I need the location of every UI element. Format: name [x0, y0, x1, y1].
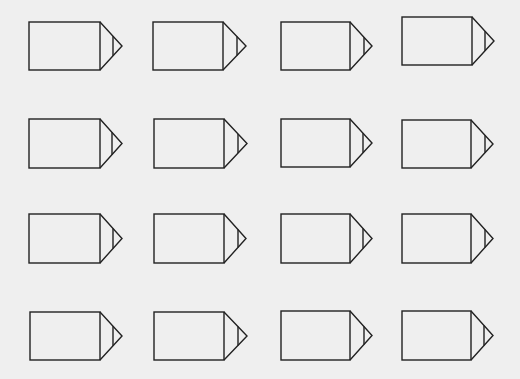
- pencil-shape-r1c1: [29, 22, 122, 70]
- shape-body-rect: [281, 311, 350, 360]
- pencil-shape-r4c3: [281, 311, 372, 360]
- shape-body-rect: [153, 22, 223, 70]
- pencil-shape-r4c1: [30, 312, 122, 360]
- shapes-grid: [29, 17, 494, 360]
- shape-tip-triangle: [350, 22, 372, 70]
- diagram-canvas: [0, 0, 520, 379]
- pencil-shape-r1c4: [402, 17, 494, 65]
- shape-body-rect: [30, 312, 100, 360]
- shape-tip-triangle: [224, 312, 247, 360]
- pencil-shape-r4c2: [154, 312, 247, 360]
- shape-body-rect: [29, 119, 100, 168]
- pencil-shape-r2c3: [281, 119, 372, 167]
- shape-tip-triangle: [100, 214, 122, 263]
- pencil-shape-r1c2: [153, 22, 246, 70]
- shape-body-rect: [402, 311, 471, 360]
- shape-body-rect: [154, 214, 224, 263]
- pencil-shape-r4c4: [402, 311, 493, 360]
- shape-body-rect: [281, 22, 350, 70]
- shape-body-rect: [402, 214, 471, 263]
- pencil-shape-r2c4: [402, 120, 493, 168]
- shape-body-rect: [29, 22, 100, 70]
- shape-tip-triangle: [100, 22, 122, 70]
- shape-tip-triangle: [471, 120, 493, 168]
- pencil-shape-r2c2: [154, 119, 247, 168]
- shape-body-rect: [154, 119, 224, 168]
- pencil-shape-r3c1: [29, 214, 122, 263]
- shape-tip-triangle: [471, 214, 493, 263]
- pencil-shape-r3c3: [281, 214, 372, 263]
- pencil-shape-r1c3: [281, 22, 372, 70]
- shape-body-rect: [154, 312, 224, 360]
- shape-body-rect: [402, 17, 472, 65]
- shape-tip-triangle: [472, 17, 494, 65]
- shape-tip-triangle: [471, 311, 493, 360]
- shape-tip-triangle: [350, 214, 372, 263]
- shape-tip-triangle: [350, 119, 372, 167]
- shape-body-rect: [281, 214, 350, 263]
- shape-tip-triangle: [224, 119, 247, 168]
- shape-tip-triangle: [224, 214, 246, 263]
- shape-tip-triangle: [100, 119, 122, 168]
- pencil-shape-r3c4: [402, 214, 493, 263]
- shape-body-rect: [281, 119, 350, 167]
- shape-tip-triangle: [223, 22, 246, 70]
- shape-tip-triangle: [100, 312, 122, 360]
- pencil-shape-r3c2: [154, 214, 246, 263]
- shape-body-rect: [29, 214, 100, 263]
- pencil-shape-r2c1: [29, 119, 122, 168]
- shape-body-rect: [402, 120, 471, 168]
- shape-tip-triangle: [350, 311, 372, 360]
